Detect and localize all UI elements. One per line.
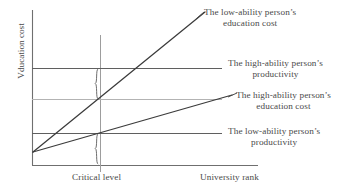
annotation-high-ability-productivity: The high-ability person’s productivity	[228, 58, 323, 81]
annotation-line-2: education cost	[204, 18, 296, 29]
y-axis-label: Vducation cost	[16, 13, 26, 89]
critical-level-label: Critical level	[72, 172, 121, 183]
annotation-high-ability-education-cost: The high-ability person’s education cost	[236, 90, 331, 113]
annotation-line-2: productivity	[228, 69, 323, 80]
low-ability-education-cost-curve	[33, 12, 205, 152]
annotation-line-1: The high-ability person’s	[236, 90, 331, 101]
brace-lower	[95, 134, 98, 164]
annotation-line-1: The high-ability person’s	[228, 58, 323, 69]
annotation-line-2: productivity	[228, 137, 320, 148]
high-ability-education-cost-curve	[33, 95, 232, 152]
figure-container: Vducation cost University rank Critical …	[0, 0, 358, 194]
leader-low-ability-education-cost	[196, 12, 204, 19]
annotation-low-ability-productivity: The low-ability person’s productivity	[228, 126, 320, 149]
annotation-line-1: The low-ability person’s	[228, 126, 320, 137]
brace-upper	[95, 69, 98, 99]
annotation-line-2: education cost	[236, 101, 331, 112]
x-axis-label: University rank	[200, 172, 259, 183]
annotation-low-ability-education-cost: The low-ability person’s education cost	[204, 7, 296, 30]
annotation-line-1: The low-ability person’s	[204, 7, 296, 18]
